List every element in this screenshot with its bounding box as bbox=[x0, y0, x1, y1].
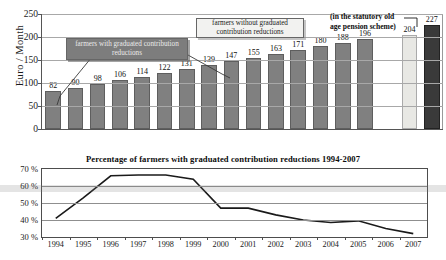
line-chart-y-tick: 50 % bbox=[20, 198, 38, 208]
line-chart-x-tick: 2007 bbox=[405, 240, 421, 249]
line-chart-x-tick-mark bbox=[400, 237, 401, 240]
line-chart-plot-area: 30 %40 %50 %60 %70 %19941995199619971998… bbox=[41, 168, 428, 238]
line-chart-x-tick-mark bbox=[180, 237, 181, 240]
bar-chart-gridline bbox=[42, 60, 443, 61]
line-chart-x-tick-mark bbox=[235, 237, 236, 240]
bar: 171 bbox=[290, 50, 306, 129]
bar: 180 bbox=[313, 46, 329, 129]
line-chart-x-tick: 2005 bbox=[350, 240, 366, 249]
line-chart-x-tick-mark bbox=[290, 237, 291, 240]
bar: 147 bbox=[224, 61, 240, 129]
line-chart-x-tick-mark bbox=[42, 237, 43, 240]
bar-value-label: 155 bbox=[248, 48, 260, 57]
bar-value-label: 106 bbox=[114, 70, 126, 79]
bar: 131 bbox=[179, 69, 195, 129]
bar-chart-y-tick: 50 bbox=[29, 101, 39, 111]
bar-chart-tick-mark bbox=[38, 14, 42, 15]
bar-chart: Euro / Month 829098106114122131139147155… bbox=[0, 0, 446, 152]
callout-farmers-with-reductions: farmers with graduated contribution redu… bbox=[66, 38, 188, 60]
chart-figure: Euro / Month 829098106114122131139147155… bbox=[0, 0, 446, 260]
bar: 139 bbox=[201, 65, 217, 129]
bar-chart-tick-mark bbox=[38, 37, 42, 38]
line-chart-y-tick: 40 % bbox=[20, 215, 38, 225]
line-chart-x-tick-mark bbox=[152, 237, 153, 240]
line-chart-x-tick-mark bbox=[317, 237, 318, 240]
bar: 90 bbox=[68, 88, 84, 129]
scan-artifact-band bbox=[0, 185, 446, 192]
bar: 122 bbox=[157, 73, 173, 129]
line-chart-x-tick: 2006 bbox=[378, 240, 394, 249]
callout-statutory-line-1: (in the statutory old bbox=[330, 12, 410, 22]
line-chart-x-tick: 1997 bbox=[130, 240, 146, 249]
callout-statutory-line-2: age pension scheme) bbox=[330, 22, 410, 32]
bar: 155 bbox=[246, 58, 262, 129]
line-chart-x-tick-mark bbox=[97, 237, 98, 240]
line-chart-x-tick-mark bbox=[207, 237, 208, 240]
line-chart-x-tick: 2001 bbox=[240, 240, 256, 249]
bar-chart-tick-mark bbox=[38, 106, 42, 107]
bar-value-label: 122 bbox=[159, 63, 171, 72]
bar-chart-y-tick: 250 bbox=[24, 9, 38, 19]
line-chart-x-tick: 2002 bbox=[268, 240, 284, 249]
line-chart: Percentage of farmers with graduated con… bbox=[0, 152, 446, 260]
bar: 106 bbox=[112, 80, 128, 129]
line-chart-x-tick-mark bbox=[345, 237, 346, 240]
bar: 82 bbox=[45, 91, 61, 129]
line-chart-x-tick: 1999 bbox=[185, 240, 201, 249]
bar-chart-tick-mark bbox=[38, 60, 42, 61]
line-chart-x-tick: 2004 bbox=[323, 240, 339, 249]
line-chart-y-tick: 70 % bbox=[20, 164, 38, 174]
bar-chart-y-tick: 200 bbox=[24, 32, 38, 42]
bar-value-label: 163 bbox=[270, 44, 282, 53]
bar-value-label: 114 bbox=[136, 67, 148, 76]
line-chart-x-tick-mark bbox=[125, 237, 126, 240]
bar-value-label: 98 bbox=[94, 74, 102, 83]
bar-value-label: 171 bbox=[292, 40, 304, 49]
bar-chart-gridline bbox=[42, 106, 443, 107]
callout-with-text: farmers with graduated contribution redu… bbox=[71, 40, 183, 58]
line-chart-y-tick: 30 % bbox=[20, 232, 38, 242]
line-chart-x-tick: 1994 bbox=[48, 240, 64, 249]
bar: 163 bbox=[268, 54, 284, 129]
line-chart-x-tick: 1996 bbox=[103, 240, 119, 249]
bar: 114 bbox=[134, 77, 150, 129]
line-chart-gridline bbox=[42, 220, 427, 221]
bar-chart-y-tick: 100 bbox=[24, 78, 38, 88]
bar: 227 bbox=[424, 25, 440, 129]
line-chart-x-tick-mark bbox=[70, 237, 71, 240]
bar-chart-tick-mark bbox=[38, 83, 42, 84]
line-chart-x-tick: 2003 bbox=[295, 240, 311, 249]
line-chart-x-tick: 1998 bbox=[158, 240, 174, 249]
bar-value-label: 227 bbox=[426, 15, 438, 24]
line-chart-title: Percentage of farmers with graduated con… bbox=[0, 154, 446, 164]
line-chart-x-tick: 2000 bbox=[213, 240, 229, 249]
bar-chart-y-tick: 150 bbox=[24, 55, 38, 65]
line-chart-gridline bbox=[42, 203, 427, 204]
line-chart-x-tick-mark bbox=[262, 237, 263, 240]
line-chart-x-tick: 1995 bbox=[75, 240, 91, 249]
bar-chart-tick-mark bbox=[38, 129, 42, 130]
callout-statutory-scheme: (in the statutory old age pension scheme… bbox=[330, 12, 410, 32]
line-chart-x-tick-mark bbox=[372, 237, 373, 240]
callout-farmers-without-reductions: farmers without graduated contribution r… bbox=[196, 18, 304, 38]
bar-chart-gridline bbox=[42, 83, 443, 84]
bar: 188 bbox=[335, 43, 351, 129]
callout-without-text: farmers without graduated contribution r… bbox=[201, 19, 299, 37]
